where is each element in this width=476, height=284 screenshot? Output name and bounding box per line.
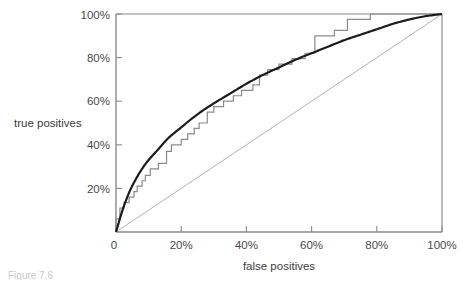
x-axis-ticks bbox=[181, 226, 442, 232]
y-tick-label-80: 80% bbox=[87, 52, 110, 64]
x-tick-label-100: 100% bbox=[427, 239, 456, 251]
y-tick-label-100: 100% bbox=[81, 9, 110, 21]
y-tick-labels: 20% 40% 60% 80% 100% bbox=[81, 9, 110, 195]
roc-figure: 20% 40% 60% 80% 100% 0 20% 40% 60% 80% 1… bbox=[0, 0, 476, 284]
x-tick-label-20: 20% bbox=[170, 239, 193, 251]
x-tick-label-60: 60% bbox=[300, 239, 323, 251]
x-axis-title: false positives bbox=[243, 260, 315, 272]
x-tick-label-0: 0 bbox=[111, 239, 117, 251]
x-tick-labels: 0 20% 40% 60% 80% 100% bbox=[111, 239, 457, 251]
y-tick-label-20: 20% bbox=[87, 183, 110, 195]
y-axis-ticks bbox=[116, 14, 122, 188]
y-axis-title: true positives bbox=[14, 117, 82, 129]
x-tick-label-80: 80% bbox=[365, 239, 388, 251]
series-layer bbox=[116, 14, 442, 232]
series-chance-diagonal bbox=[116, 14, 442, 232]
y-tick-label-60: 60% bbox=[87, 95, 110, 107]
x-tick-label-40: 40% bbox=[235, 239, 258, 251]
figure-caption-fragment: Figure 7.6 bbox=[8, 271, 248, 280]
roc-chart-svg: 20% 40% 60% 80% 100% 0 20% 40% 60% 80% 1… bbox=[0, 0, 476, 284]
y-tick-label-40: 40% bbox=[87, 139, 110, 151]
